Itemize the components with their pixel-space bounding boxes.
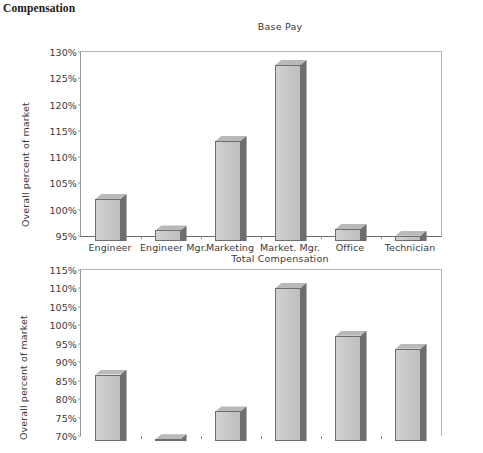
y-axis-tick-label: 110% bbox=[49, 283, 81, 294]
bar bbox=[335, 331, 366, 441]
y-axis-tick-mark bbox=[78, 270, 81, 271]
bar-top-edge bbox=[155, 230, 180, 231]
bar bbox=[275, 60, 306, 241]
y-axis-tick-mark bbox=[78, 52, 81, 53]
x-axis-tick-mark bbox=[321, 236, 322, 239]
plot-area-base-pay: 95%100%105%110%115%120%125%130% bbox=[80, 51, 442, 237]
y-axis-tick-mark bbox=[78, 325, 81, 326]
bar-top-edge bbox=[395, 236, 420, 237]
x-axis-tick-mark bbox=[261, 236, 262, 239]
bar-front-face bbox=[335, 336, 360, 441]
bar-top-edge bbox=[275, 65, 300, 66]
bar-front-face bbox=[215, 141, 240, 241]
y-axis-tick-label: 100% bbox=[49, 204, 81, 215]
y-axis-tick-label: 105% bbox=[49, 301, 81, 312]
bar-top-edge bbox=[275, 288, 300, 289]
y-axis-tick-mark bbox=[78, 157, 81, 158]
bar-top-edge bbox=[215, 411, 240, 412]
y-axis-tick-label: 120% bbox=[49, 99, 81, 110]
bar-top-edge bbox=[395, 349, 420, 350]
y-axis-tick-mark bbox=[78, 183, 81, 184]
bar-side-face bbox=[301, 60, 307, 241]
y-axis-tick-mark bbox=[78, 306, 81, 307]
bar-side-face bbox=[301, 283, 307, 441]
bar bbox=[395, 344, 426, 441]
y-axis-tick-label: 115% bbox=[49, 265, 81, 276]
y-axis-title-total-compensation: Overall percent of market bbox=[18, 315, 29, 440]
y-axis-tick-label: 110% bbox=[49, 152, 81, 163]
bar-front-face bbox=[155, 230, 180, 241]
x-axis-tick-mark bbox=[201, 436, 202, 439]
bar-side-face bbox=[121, 370, 127, 441]
chart-base-pay: Base Pay Overall percent of market 95%10… bbox=[0, 17, 483, 250]
y-axis-tick-mark bbox=[78, 78, 81, 79]
bar-front-face bbox=[395, 349, 420, 441]
bar-top-edge bbox=[155, 439, 180, 440]
y-axis-tick-label: 100% bbox=[49, 320, 81, 331]
bar-side-face bbox=[241, 136, 247, 241]
page-title: Compensation bbox=[0, 0, 483, 17]
x-axis-tick-mark bbox=[381, 236, 382, 239]
y-axis-tick-label: 115% bbox=[49, 125, 81, 136]
bar-top-edge bbox=[335, 336, 360, 337]
x-axis-tick-mark bbox=[381, 436, 382, 439]
bar-side-face bbox=[241, 406, 247, 441]
y-axis-tick-label: 105% bbox=[49, 178, 81, 189]
bar-side-face bbox=[121, 194, 127, 241]
bar bbox=[275, 283, 306, 441]
bar-front-face bbox=[215, 411, 240, 441]
x-axis-tick-mark bbox=[261, 436, 262, 439]
bar bbox=[335, 224, 366, 241]
y-axis-tick-mark bbox=[78, 417, 81, 418]
y-axis-tick-label: 130% bbox=[49, 47, 81, 58]
bar-side-face bbox=[421, 344, 427, 441]
x-axis-tick-mark bbox=[321, 436, 322, 439]
bar bbox=[215, 406, 246, 441]
y-axis-tick-mark bbox=[78, 288, 81, 289]
bar-top-edge bbox=[215, 141, 240, 142]
bar bbox=[155, 225, 186, 241]
bar-top-edge bbox=[95, 199, 120, 200]
bar-front-face bbox=[275, 288, 300, 441]
bar bbox=[95, 194, 126, 241]
x-axis-tick-mark bbox=[201, 236, 202, 239]
x-axis-tick-mark bbox=[141, 236, 142, 239]
y-axis-tick-mark bbox=[78, 399, 81, 400]
bar-side-face bbox=[361, 331, 367, 441]
bar-front-face bbox=[335, 229, 360, 241]
y-axis-tick-mark bbox=[78, 343, 81, 344]
chart-title-base-pay: Base Pay bbox=[80, 21, 480, 32]
bar-top-edge bbox=[335, 229, 360, 230]
y-axis-title-base-pay: Overall percent of market bbox=[20, 102, 31, 227]
y-axis-tick-mark bbox=[78, 380, 81, 381]
bar-top-edge bbox=[95, 375, 120, 376]
bar bbox=[215, 136, 246, 241]
y-axis-tick-label: 125% bbox=[49, 73, 81, 84]
x-axis-tick-mark bbox=[141, 436, 142, 439]
bar-front-face bbox=[95, 375, 120, 441]
chart-title-total-compensation: Total Compensation bbox=[80, 253, 480, 264]
y-axis-tick-mark bbox=[78, 362, 81, 363]
y-axis-tick-mark bbox=[78, 209, 81, 210]
y-axis-tick-mark bbox=[78, 104, 81, 105]
bar-front-face bbox=[275, 65, 300, 241]
bar-front-face bbox=[95, 199, 120, 241]
y-axis-tick-mark bbox=[78, 236, 81, 237]
bar bbox=[395, 231, 426, 241]
bar bbox=[155, 434, 186, 441]
y-axis-tick-mark bbox=[78, 130, 81, 131]
y-axis-tick-mark bbox=[78, 436, 81, 437]
bar bbox=[95, 370, 126, 441]
chart-total-compensation: Total Compensation Overall percent of ma… bbox=[0, 250, 483, 453]
plot-area-total-compensation: 70%75%80%85%90%95%100%105%110%115% bbox=[80, 269, 442, 436]
